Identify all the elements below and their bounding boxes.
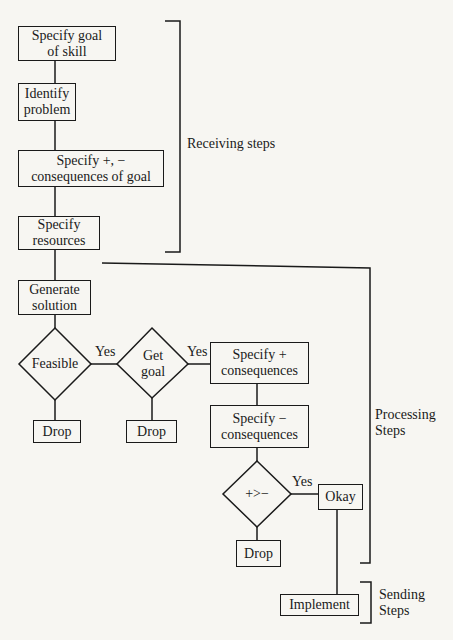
yes-label-get-goal: Yes (187, 344, 207, 360)
node-drop-3: Drop (236, 540, 281, 567)
node-specify-consequences-goal: Specify +, − consequences of goal (18, 150, 164, 187)
node-identify-problem: Identify problem (18, 83, 76, 121)
node-specify-resources: Specify resources (18, 216, 100, 250)
yes-label-compare: Yes (292, 474, 312, 490)
node-specify-goal: Specify goal of skill (18, 26, 116, 61)
receiving-steps-label: Receiving steps (187, 136, 275, 152)
sending-steps-label: Sending Steps (379, 587, 425, 619)
node-specify-plus: Specify + consequences (210, 342, 309, 384)
get-goal-label: Get goal (141, 348, 165, 380)
node-drop-1: Drop (33, 420, 81, 443)
node-drop-2: Drop (126, 420, 177, 443)
sending-bracket (360, 582, 371, 623)
node-specify-minus: Specify − consequences (210, 405, 309, 448)
node-generate-solution: Generate solution (18, 280, 91, 315)
receiving-bracket (165, 21, 180, 252)
node-implement: Implement (280, 594, 359, 616)
feasible-label: Feasible (32, 356, 79, 372)
node-okay: Okay (318, 484, 363, 510)
compare-label: +>− (245, 486, 269, 502)
processing-steps-label: Processing Steps (375, 407, 436, 439)
yes-label-feasible: Yes (95, 344, 115, 360)
